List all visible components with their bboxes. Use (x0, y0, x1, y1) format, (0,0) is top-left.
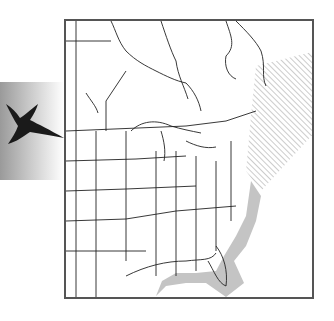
map-frame (64, 19, 314, 299)
coastal-range (156, 181, 261, 297)
eastern-north-america-map (66, 21, 314, 299)
bird-silhouette-icon (4, 98, 64, 148)
bird-legend-box (0, 82, 64, 180)
hatched-range (246, 51, 314, 191)
